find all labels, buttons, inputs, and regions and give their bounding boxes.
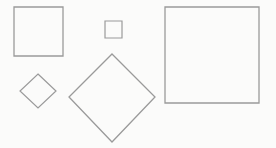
canvas-background bbox=[0, 0, 276, 148]
shapes-svg-canvas: Geometric shapes figure Five unfilled gr… bbox=[0, 0, 276, 148]
shape-canvas-root: Geometric shapes figure Five unfilled gr… bbox=[0, 0, 276, 148]
